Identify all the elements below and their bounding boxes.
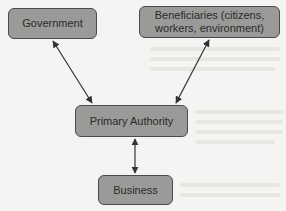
- node-label: Business: [113, 184, 158, 197]
- node-primary-authority: Primary Authority: [75, 105, 188, 137]
- arrow-beneficiaries-primary-authority: [176, 40, 209, 103]
- node-government: Government: [8, 8, 97, 39]
- node-label: Beneficiaries (citizens, workers, enviro…: [140, 9, 279, 35]
- node-label: Primary Authority: [90, 115, 174, 128]
- node-label: Government: [22, 17, 83, 30]
- arrow-government-primary-authority: [53, 41, 92, 103]
- node-business: Business: [98, 175, 173, 205]
- node-beneficiaries: Beneficiaries (citizens, workers, enviro…: [139, 6, 280, 38]
